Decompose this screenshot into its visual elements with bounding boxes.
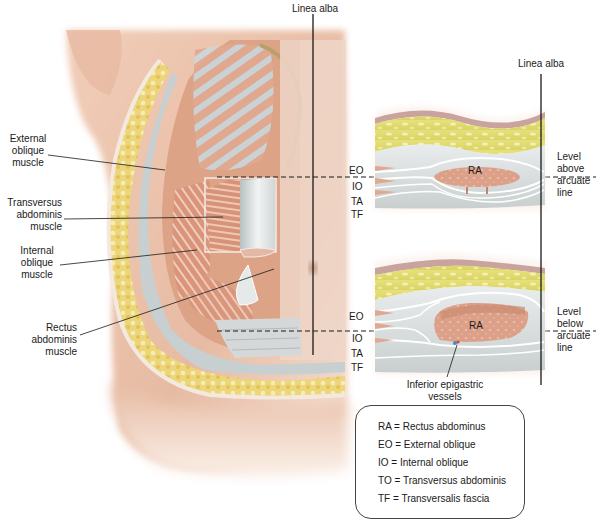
- callout-internal-oblique: Internal oblique muscle: [14, 245, 60, 281]
- callout-rectus-abdominis: Rectus abdominis muscle: [0, 322, 77, 358]
- vessel-vein-icon: [453, 341, 457, 345]
- legend-item-eo: EO = External oblique: [378, 439, 476, 450]
- legend-item-io: IO = Internal oblique: [378, 457, 468, 468]
- layer-label-ta-lower: TA: [351, 348, 363, 360]
- vessel-artery-icon: [456, 340, 459, 343]
- linea-alba-label-main: Linea alba: [280, 3, 350, 15]
- vessel-label: Inferior epigastric vessels: [390, 379, 500, 403]
- level-label-below: Level below arcuate line: [557, 306, 590, 354]
- legend-item-to: TO = Transversus abdominis: [378, 475, 506, 486]
- cross-section-above-arcuate: [375, 106, 545, 210]
- layer-label-ta-upper: TA: [351, 196, 363, 208]
- linea-alba-label-sections: Linea alba: [506, 58, 576, 70]
- layer-label-tf-lower: TF: [351, 362, 363, 374]
- legend-box: RA = Rectus abdominus EO = External obli…: [355, 405, 525, 519]
- legend-item-tf: TF = Transversalis fascia: [378, 493, 489, 504]
- torso-illustration: [66, 30, 348, 478]
- layer-label-eo-lower: EO: [349, 311, 363, 323]
- layer-label-io-upper: IO: [352, 181, 363, 193]
- legend-item-ra: RA = Rectus abdominus: [378, 421, 486, 432]
- cross-section-below-arcuate: [375, 254, 545, 377]
- muscle-label-ra-upper: RA: [468, 165, 482, 177]
- muscle-label-ra-lower: RA: [469, 320, 483, 332]
- layer-label-eo-upper: EO: [349, 165, 363, 177]
- callout-external-oblique: External oblique muscle: [0, 133, 56, 169]
- callout-transversus-abdominis: Transversus abdominis muscle: [0, 197, 62, 233]
- level-label-above: Level above arcuate line: [557, 151, 590, 199]
- layer-label-io-lower: IO: [352, 333, 363, 345]
- layer-label-tf-upper: TF: [351, 209, 363, 221]
